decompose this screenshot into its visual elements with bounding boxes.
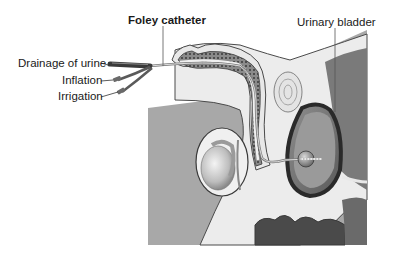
pubic-symphysis (274, 72, 302, 112)
label-inflation: Inflation (62, 75, 102, 87)
foley-catheter-diagram: Foley catheter Urinary bladder Drainage … (0, 0, 398, 256)
label-foley-catheter: Foley catheter (128, 15, 206, 27)
leader-inflation (101, 80, 113, 81)
testis (201, 146, 235, 190)
label-irrigation: Irrigation (58, 91, 103, 103)
anatomy-illustration (0, 0, 398, 256)
rectum (255, 215, 345, 245)
label-drainage-of-urine: Drainage of urine (18, 58, 106, 70)
label-urinary-bladder: Urinary bladder (297, 17, 376, 29)
leader-irrigation (101, 92, 118, 97)
